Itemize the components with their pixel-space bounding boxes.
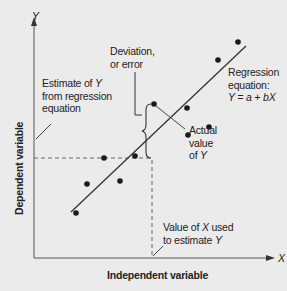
y-axis-letter: Y: [32, 10, 39, 23]
regression-diagram: Y X Dependent variable Independent varia…: [0, 0, 287, 291]
regression-line: [71, 46, 246, 212]
y-axis-title: Dependent variable: [13, 122, 25, 215]
diagram-graphics: [0, 0, 287, 291]
regression-equation-label: Regression equation: Y = a + bX: [228, 66, 279, 104]
deviation-label: Deviation, or error: [110, 45, 155, 70]
x-used-label: Value of X used to estimate Y: [163, 221, 233, 246]
x-axis-arrow-icon: [266, 255, 275, 261]
actual-leader-line: [156, 106, 185, 129]
estimate-leader-line: [36, 124, 51, 139]
xused-leader-line: [153, 246, 163, 256]
deviation-leader-line: [135, 72, 142, 115]
x-axis-title: Independent variable: [107, 269, 208, 281]
x-axis-letter: X: [278, 252, 285, 265]
actual-value-label: Actual value of Y: [189, 124, 217, 162]
deviation-brace: [142, 104, 151, 158]
estimate-label: Estimate of Y from regression equation: [42, 77, 112, 115]
